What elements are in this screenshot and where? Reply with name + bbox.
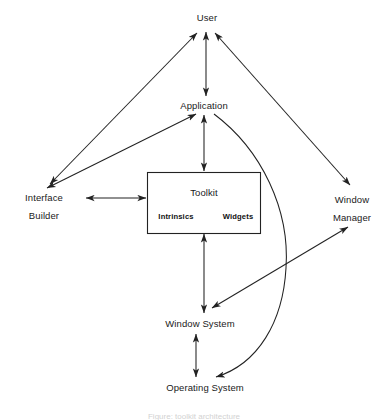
diagram-canvas: User Application Interface Builder Windo… (0, 0, 388, 420)
node-label-widgets: Widgets (223, 212, 254, 221)
node-label-interface-builder-line1: Interface (25, 189, 63, 207)
node-label-interface-builder: Interface Builder (25, 189, 63, 225)
node-label-user: User (197, 12, 217, 25)
node-label-window-manager-line1: Window (333, 191, 371, 209)
node-label-operating-system: Operating System (166, 382, 244, 395)
node-label-interface-builder-line2: Builder (25, 207, 63, 225)
edge-user-window-manager (215, 33, 350, 185)
figure-caption: Figure: toolkit architecture (0, 412, 388, 420)
node-label-application: Application (180, 100, 228, 113)
node-label-window-system: Window System (165, 318, 234, 331)
node-label-window-manager: Window Manager (333, 191, 371, 227)
node-label-toolkit: Toolkit (190, 187, 218, 200)
toolkit-box (148, 173, 261, 234)
edge-application-operating-system-curve (214, 114, 286, 377)
edge-interface-builder-user (50, 33, 197, 184)
node-label-intrinsics: Intrinsics (158, 212, 193, 221)
node-label-window-manager-line2: Manager (333, 209, 371, 227)
edge-window-system-window-manager (212, 227, 348, 308)
